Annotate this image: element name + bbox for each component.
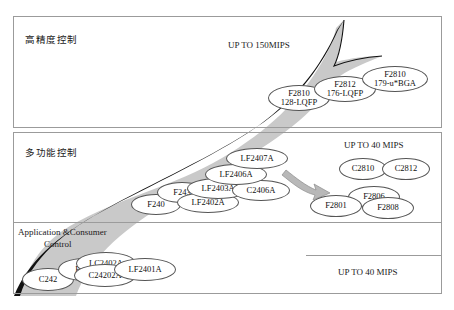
- divider-application-consumer: [14, 222, 441, 223]
- chip-f2801[interactable]: F2801: [310, 195, 362, 217]
- chip-label: C2812: [395, 164, 418, 174]
- chip-label: LF2401A: [128, 265, 161, 275]
- chip-label: LF2403A: [201, 184, 234, 194]
- chip-label: F2810128-LQFP: [281, 89, 317, 108]
- chip-label: F2801: [325, 201, 347, 211]
- chip-label: C2406A: [247, 186, 276, 196]
- chip-c2812[interactable]: C2812: [382, 158, 430, 180]
- chip-label: F2808: [377, 203, 399, 213]
- label-application-consumer-control: Application &Consumer Control: [18, 226, 107, 250]
- chip-label: LF2402A: [191, 198, 224, 208]
- label-application-consumer-line1: Application &Consumer: [18, 227, 107, 237]
- chip-label: LF2406A: [219, 170, 252, 180]
- label-application-consumer-line2: Control: [18, 238, 107, 250]
- chip-lf2401a[interactable]: LF2401A: [114, 258, 176, 281]
- divider-bottom-mips: [306, 255, 441, 256]
- label-multifunction-control: 多功能控制: [25, 145, 78, 159]
- label-up-to-40mips-bottom: UP TO 40 MIPS: [338, 267, 398, 277]
- label-high-precision-control: 高精度控制: [25, 32, 78, 46]
- chip-label: LF2407A: [240, 154, 273, 164]
- chip-label: F2812176-LQFP: [327, 80, 363, 99]
- chip-lf2407a[interactable]: LF2407A: [226, 148, 288, 169]
- chip-c2810[interactable]: C2810: [339, 158, 387, 180]
- chip-label: C2810: [352, 164, 375, 174]
- chip-label: F240: [147, 200, 164, 210]
- label-up-to-40mips-middle: UP TO 40 MIPS: [344, 140, 404, 150]
- label-up-to-150mips: UP TO 150MIPS: [228, 40, 290, 50]
- chip-f2808[interactable]: F2808: [362, 197, 414, 219]
- chip-label: C242: [39, 275, 57, 285]
- chip-label: F2810179-u*BGA: [374, 70, 416, 89]
- chip-f2810-179[interactable]: F2810179-u*BGA: [362, 66, 428, 92]
